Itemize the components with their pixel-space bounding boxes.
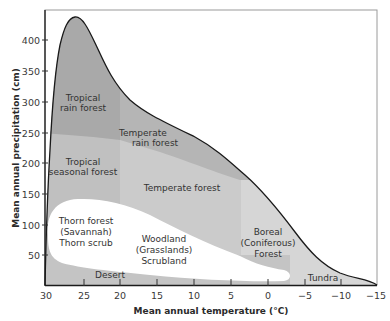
y-tick-labels: 50 100 150 200 250 300 350 400: [22, 35, 40, 261]
x-axis-title: Mean annual temperature (°C): [134, 306, 289, 316]
label-tropical-rain-forest-2: rain forest: [60, 103, 107, 113]
x-tick-20: 20: [114, 290, 126, 301]
label-woodland-3: Scrubland: [141, 256, 186, 266]
label-woodland-1: Woodland: [142, 234, 187, 244]
y-tick-400: 400: [22, 35, 40, 46]
label-temperate-forest: Temperate forest: [143, 183, 221, 193]
y-tick-250: 250: [22, 128, 40, 139]
y-tick-350: 350: [22, 66, 40, 77]
label-temperate-rain-forest-2: rain forest: [132, 138, 179, 148]
label-boreal-1: Boreal: [254, 227, 283, 237]
label-tundra: Tundra: [307, 273, 338, 283]
x-tick-5: 5: [228, 290, 234, 301]
x-tick-minus15: −15: [366, 290, 386, 301]
biome-diagram: 50 100 150 200 250 300 350 400 30 25 20 …: [0, 0, 390, 321]
label-tropical-seasonal-forest-1: Tropical: [65, 157, 100, 167]
label-woodland-2: (Grasslands): [136, 245, 193, 255]
label-thorn-forest-2: (Savannah): [60, 227, 112, 237]
label-desert: Desert: [95, 270, 125, 280]
y-tick-50: 50: [28, 250, 40, 261]
x-tick-25: 25: [78, 290, 90, 301]
y-axis-title: Mean annual precipitation (cm): [11, 68, 21, 228]
x-tick-10: 10: [188, 290, 200, 301]
x-tick-minus10: −10: [331, 290, 351, 301]
x-tick-0: 0: [265, 290, 271, 301]
x-tick-labels: 30 25 20 15 10 5 0 −5 −10 −15: [40, 290, 386, 301]
label-thorn-forest-1: Thorn forest: [58, 216, 114, 226]
x-tick-minus5: −5: [298, 290, 312, 301]
label-temperate-rain-forest-1: Temperate: [118, 128, 167, 138]
x-tick-30: 30: [40, 290, 52, 301]
x-tick-15: 15: [151, 290, 163, 301]
label-tropical-rain-forest-1: Tropical: [65, 93, 100, 103]
label-tropical-seasonal-forest-2: seasonal forest: [49, 167, 118, 177]
y-tick-200: 200: [22, 158, 40, 169]
y-tick-100: 100: [22, 220, 40, 231]
label-thorn-forest-3: Thorn scrub: [58, 238, 113, 248]
label-boreal-2: (Coniferous): [240, 238, 295, 248]
y-tick-300: 300: [22, 97, 40, 108]
label-boreal-3: Forest: [254, 249, 282, 259]
y-tick-150: 150: [22, 189, 40, 200]
